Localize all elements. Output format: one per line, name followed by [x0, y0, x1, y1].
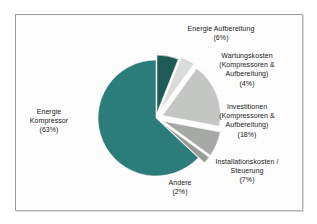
pie-label-installationskosten: Installationskosten / Steuerung (7%): [198, 157, 296, 185]
chart-frame: Energie Kompressor (63%) Energie Aufbere…: [15, 14, 303, 211]
pie-label-andere: Andere (2%): [156, 178, 204, 196]
pie-label-wartungskosten: Wartungskosten (Kompressoren & Aufbereit…: [198, 51, 296, 88]
pie-label-energie-aufbereitung: Energie Aufbereitung (6%): [166, 24, 276, 42]
pie-label-energie-kompressor: Energie Kompressor (63%): [18, 107, 80, 135]
pie-label-investitionen: Investitionen (Kompressoren & Aufbereitu…: [198, 102, 296, 139]
